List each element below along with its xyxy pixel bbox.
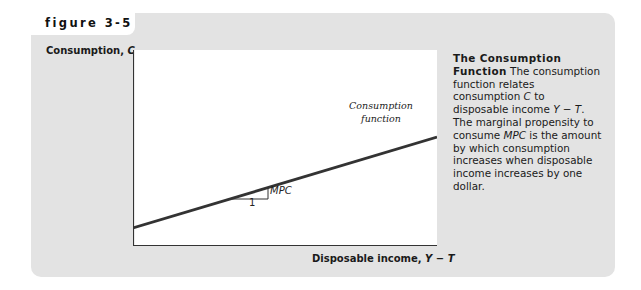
curve-label: Consumptionfunction [341, 99, 421, 125]
figure-number: figure 3-5 [45, 16, 133, 30]
curve-label-line1: Consumption [341, 99, 421, 112]
y-axis-label: Consumption, C [46, 45, 135, 56]
figure-caption: The Consumption Function The consumption… [453, 52, 603, 193]
x-axis-label-text: Disposable income, [312, 253, 425, 264]
plot-area [133, 50, 437, 246]
caption-var: C [524, 90, 531, 102]
caption-var: MPC [503, 129, 526, 141]
mpc-label: MPC [270, 185, 292, 196]
caption-var: Y − T [553, 103, 581, 115]
run-label: 1 [249, 197, 255, 208]
consumption-function-line [133, 137, 437, 228]
curve-label-line2: function [341, 112, 421, 125]
y-axis-label-text: Consumption, [46, 45, 127, 56]
x-axis-var: Y − T [425, 253, 454, 264]
consumption-chart [133, 50, 437, 246]
x-axis-label: Disposable income, Y − T [312, 253, 455, 264]
